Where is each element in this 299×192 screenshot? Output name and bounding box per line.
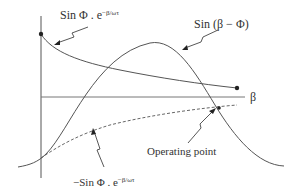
label-decaying-negative-main: −Sin Φ . e [73,176,118,188]
leader-arrow-decaying-negative [94,131,104,167]
label-operating-point: Operating point [147,146,216,157]
label-decaying-negative-exponent: −β/ωτ [118,176,135,184]
arrowhead-icon [182,45,188,50]
leader-arrow-decaying-positive [57,27,88,43]
label-sine: Sin (β − Φ) [194,18,249,30]
arrowhead-icon [54,40,60,45]
beta-axis-label: β [250,90,256,104]
arrowhead-icon [209,108,216,114]
operating-point-label: Operating point [147,145,216,157]
leader-arrow-operating-point [188,111,213,143]
label-decaying-positive-main: Sin Φ . e [60,8,102,22]
leader-arrow-sine [185,30,218,48]
label-sine-text: Sin (β − Φ) [194,17,249,31]
label-decaying-positive-exponent: −β/ωτ [102,9,119,17]
label-decaying-negative: −Sin Φ . e−β/ωτ [73,177,135,188]
decaying-positive-curve [41,34,237,88]
start-dot [39,32,43,36]
label-beta-axis: β [250,91,256,103]
operating-point-dot [217,106,221,110]
end-dot [235,86,239,90]
label-decaying-positive: Sin Φ . e−β/ωτ [60,9,119,21]
